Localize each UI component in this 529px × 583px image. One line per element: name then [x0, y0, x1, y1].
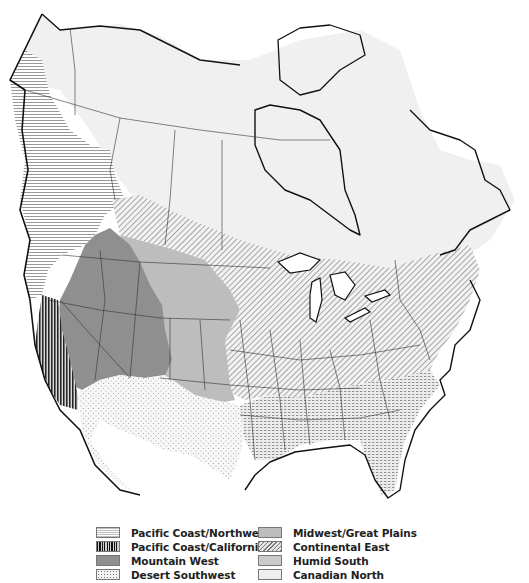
legend-item-humid-south: Humid South: [258, 554, 417, 567]
dark-gray-swatch-icon: [96, 555, 120, 566]
legend-label: Canadian North: [293, 569, 384, 581]
legend-column-left: Pacific Coast/Northwest Pacific Coast/Ca…: [96, 526, 270, 582]
legend-label: Humid South: [293, 555, 369, 567]
legend-item-continental-east: Continental East: [258, 540, 417, 553]
legend-column-right: Midwest/Great Plains Continental East Hu…: [258, 526, 417, 582]
legend-item-midwest-great-plains: Midwest/Great Plains: [258, 526, 417, 539]
legend-label: Pacific Coast/California: [131, 541, 265, 553]
north-america-region-map: [0, 0, 529, 500]
map-legend: Pacific Coast/Northwest Pacific Coast/Ca…: [96, 526, 526, 582]
legend-label: Continental East: [293, 541, 389, 553]
stippled-swatch-icon: [258, 555, 282, 566]
legend-item-pacific-coast-northwest: Pacific Coast/Northwest: [96, 526, 270, 539]
dotted-swatch-icon: [96, 569, 120, 580]
light-gray-swatch-icon: [258, 569, 282, 580]
legend-label: Midwest/Great Plains: [293, 527, 417, 539]
legend-item-pacific-coast-california: Pacific Coast/California: [96, 540, 270, 553]
legend-item-desert-southwest: Desert Southwest: [96, 568, 270, 581]
horizontal-lines-swatch-icon: [96, 527, 120, 538]
legend-label: Desert Southwest: [131, 569, 235, 581]
diagonal-lines-swatch-icon: [258, 541, 282, 552]
legend-label: Pacific Coast/Northwest: [131, 527, 270, 539]
mid-gray-swatch-icon: [258, 527, 282, 538]
legend-item-mountain-west: Mountain West: [96, 554, 270, 567]
legend-label: Mountain West: [131, 555, 219, 567]
vertical-lines-swatch-icon: [96, 541, 120, 552]
legend-item-canadian-north: Canadian North: [258, 568, 417, 581]
